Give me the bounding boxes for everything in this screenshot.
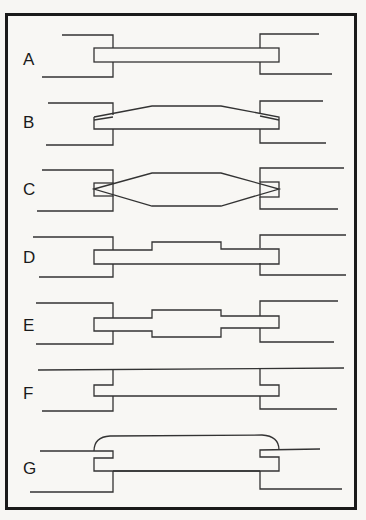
panel-label-f: F [23,384,33,404]
panel-g-drawing [30,435,342,492]
panel-label-b: B [23,113,34,133]
panel-label-a: A [23,50,34,70]
panel-d-drawing [33,235,346,277]
panel-label-c: C [23,180,35,200]
panel-c-drawing [37,168,344,211]
panel-e-drawing [36,301,338,344]
panel-label-e: E [23,316,34,336]
panel-label-d: D [23,248,35,268]
panel-label-g: G [23,459,36,479]
panel-a-drawing [42,34,332,77]
panel-f-drawing [38,368,344,411]
diagram-canvas [0,0,366,520]
panel-b-drawing [46,101,326,145]
